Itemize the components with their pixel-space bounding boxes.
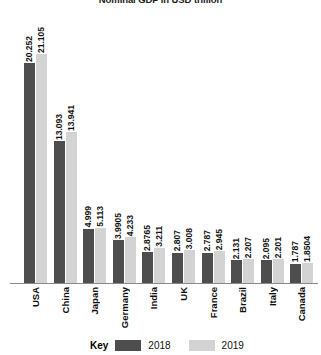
bar-value-text: 2.787: [202, 230, 213, 251]
category-label-text: India: [148, 287, 159, 309]
bar-value-text: 5.113: [95, 206, 106, 227]
bar-group: 2.0952.201: [261, 14, 284, 283]
category-label-text: Japan: [89, 287, 100, 314]
bar-value-text: 2.201: [273, 237, 284, 258]
bar-value-text: 20.252: [24, 36, 35, 62]
category-label-text: Italy: [267, 287, 278, 306]
bar-india-2019[interactable]: 3.211: [154, 248, 165, 283]
bar-china-2019[interactable]: 13.941: [66, 132, 77, 283]
bar-value-text: 3.9905: [113, 213, 124, 239]
bar-group: 20.25221.105: [24, 14, 47, 283]
x-axis-line: [10, 283, 318, 284]
legend-swatch-2018: [115, 340, 141, 351]
bar-germany-2019[interactable]: 4.233: [125, 237, 136, 283]
category-label-text: Brazil: [237, 287, 248, 313]
bar-value-text: 2.207: [243, 237, 254, 258]
bar-india-2018[interactable]: 2.8765: [142, 252, 153, 283]
bar-usa-2019[interactable]: 21.105: [36, 54, 47, 283]
bar-germany-2018[interactable]: 3.9905: [113, 240, 124, 283]
category-label-text: Canada: [296, 287, 307, 321]
legend-item-2018[interactable]: 2018: [115, 340, 170, 351]
bar-value-text: 1.787: [290, 241, 301, 262]
chart-title: Nominal GDP in USD trillion: [0, 0, 321, 5]
legend-label-2019: 2019: [222, 340, 244, 351]
bar-value-text: 3.211: [154, 226, 165, 247]
legend-item-2019[interactable]: 2019: [189, 340, 244, 351]
bar-usa-2018[interactable]: 20.252: [24, 63, 35, 283]
bar-value-text: 2.945: [214, 229, 225, 250]
category-label-text: Germany: [119, 287, 130, 328]
bar-group: 2.7872.945: [202, 14, 225, 283]
bar-canada-2018[interactable]: 1.787: [290, 264, 301, 283]
bar-group: 1.7871.8504: [290, 14, 313, 283]
bar-value-text: 13.093: [54, 114, 65, 140]
bar-canada-2019[interactable]: 1.8504: [302, 263, 313, 283]
category-label-text: China: [60, 287, 71, 313]
bar-group: 2.1312.207: [231, 14, 254, 283]
bar-japan-2018[interactable]: 4.999: [83, 229, 94, 283]
bar-value-text: 3.008: [184, 228, 195, 249]
legend-label-2018: 2018: [148, 340, 170, 351]
plot-area: 20.25221.10513.09313.9414.9995.1133.9905…: [10, 14, 318, 283]
bar-value-text: 2.095: [261, 238, 272, 259]
bar-uk-2018[interactable]: 2.807: [172, 253, 183, 283]
bar-brazil-2019[interactable]: 2.207: [243, 259, 254, 283]
bar-france-2018[interactable]: 2.787: [202, 253, 213, 283]
bar-brazil-2018[interactable]: 2.131: [231, 260, 242, 283]
bar-group: 2.8073.008: [172, 14, 195, 283]
bar-value-text: 4.999: [83, 206, 94, 227]
category-label-text: USA: [30, 287, 41, 307]
legend-key-label: Key: [90, 340, 108, 351]
bar-china-2018[interactable]: 13.093: [54, 141, 65, 283]
chart-legend: Key 2018 2019: [90, 339, 262, 352]
legend-swatch-2019: [189, 340, 215, 351]
category-label-text: UK: [178, 287, 189, 301]
bar-group: 3.99054.233: [113, 14, 136, 283]
bar-italy-2018[interactable]: 2.095: [261, 260, 272, 283]
bar-value-text: 13.941: [66, 105, 77, 131]
category-label-text: France: [208, 287, 219, 318]
bar-value-text: 2.807: [172, 230, 183, 251]
bar-group: 4.9995.113: [83, 14, 106, 283]
bar-uk-2019[interactable]: 3.008: [184, 250, 195, 283]
bar-value-text: 4.233: [125, 215, 136, 236]
bar-value-text: 21.105: [36, 27, 47, 53]
bar-group: 2.87653.211: [142, 14, 165, 283]
bar-chart: Nominal GDP in USD trillion 20.25221.105…: [0, 0, 321, 355]
bar-france-2019[interactable]: 2.945: [214, 251, 225, 283]
bar-value-text: 2.8765: [142, 225, 153, 251]
bar-value-text: 1.8504: [302, 236, 313, 262]
bar-italy-2019[interactable]: 2.201: [273, 259, 284, 283]
bar-value-text: 2.131: [231, 238, 242, 259]
bar-group: 13.09313.941: [54, 14, 77, 283]
bar-japan-2019[interactable]: 5.113: [95, 228, 106, 283]
